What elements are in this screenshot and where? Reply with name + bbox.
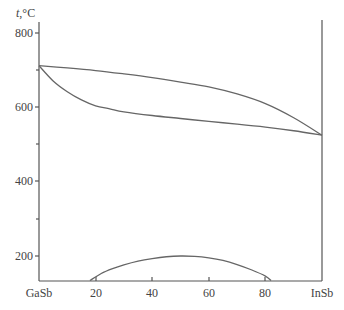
x-label-gasb: GaSb (26, 286, 53, 300)
x-tick-label-80: 80 (259, 286, 271, 300)
x-label-insb: InSb (311, 286, 334, 300)
y-tick-label-800: 800 (15, 26, 33, 40)
miscibility-gap-curve (90, 256, 271, 281)
y-axis-title: t,°C (16, 6, 35, 20)
solidus-curve (39, 66, 322, 136)
y-tick-label-400: 400 (15, 174, 33, 188)
x-tick-label-60: 60 (203, 286, 215, 300)
x-tick-label-20: 20 (90, 286, 102, 300)
y-tick-label-200: 200 (15, 249, 33, 263)
x-tick-label-40: 40 (146, 286, 158, 300)
phase-diagram: t,°C 800 600 400 200 GaSb 20 40 60 80 In… (0, 0, 344, 310)
y-tick-label-600: 600 (15, 100, 33, 114)
